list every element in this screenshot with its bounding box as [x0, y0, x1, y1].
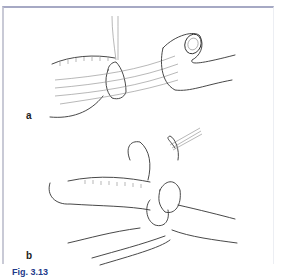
panel-label-a: a: [26, 110, 32, 121]
panel-a-drawing: [50, 16, 235, 117]
panel-b-drawing: [49, 128, 237, 265]
figure-caption: Fig. 3.13: [12, 267, 48, 277]
panel-label-b: b: [26, 250, 32, 261]
figure-number: Fig. 3.13: [12, 267, 48, 277]
